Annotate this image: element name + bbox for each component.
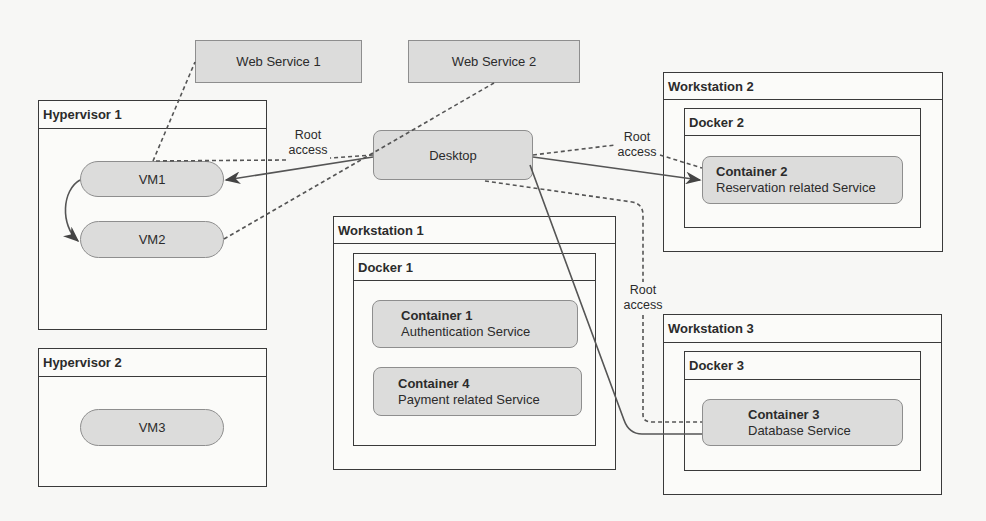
container-4-service: Payment related Service xyxy=(398,392,540,408)
hypervisor-2-title: Hypervisor 2 xyxy=(39,349,266,377)
web-service-1-node[interactable]: Web Service 1 xyxy=(195,40,362,83)
vm2-label: VM2 xyxy=(139,232,166,247)
web-service-2-label: Web Service 2 xyxy=(452,54,536,69)
container-2-node[interactable]: Container 2 Reservation related Service xyxy=(702,156,903,204)
container-4-node[interactable]: Container 4 Payment related Service xyxy=(373,367,582,416)
docker-1-frame[interactable]: Docker 1 xyxy=(353,253,596,446)
web-service-1-label: Web Service 1 xyxy=(236,54,320,69)
vm1-node[interactable]: VM1 xyxy=(80,161,224,197)
workstation-3-title: Workstation 3 xyxy=(664,315,941,343)
container-3-node[interactable]: Container 3 Database Service xyxy=(702,399,903,446)
container-2-service: Reservation related Service xyxy=(716,180,876,196)
hypervisor-1-title: Hypervisor 1 xyxy=(39,101,266,129)
container-1-service: Authentication Service xyxy=(401,324,530,340)
desktop-label: Desktop xyxy=(429,148,477,163)
container-1-name: Container 1 xyxy=(401,308,473,324)
root-access-label-container2: Root access xyxy=(615,130,659,160)
container-3-name: Container 3 xyxy=(748,407,820,423)
docker-1-title: Docker 1 xyxy=(354,254,595,281)
vm3-label: VM3 xyxy=(139,420,166,435)
workstation-2-title: Workstation 2 xyxy=(664,73,942,100)
docker-3-title: Docker 3 xyxy=(685,352,920,380)
container-3-service: Database Service xyxy=(748,423,851,439)
vm3-node[interactable]: VM3 xyxy=(80,409,224,446)
vm2-node[interactable]: VM2 xyxy=(80,221,224,258)
container-4-name: Container 4 xyxy=(398,376,470,392)
workstation-1-title: Workstation 1 xyxy=(334,217,615,244)
container-1-node[interactable]: Container 1 Authentication Service xyxy=(372,300,578,348)
hypervisor-1-frame[interactable]: Hypervisor 1 xyxy=(38,100,267,330)
web-service-2-node[interactable]: Web Service 2 xyxy=(408,40,580,83)
diagram-canvas: Web Service 1 Web Service 2 Desktop Hype… xyxy=(0,0,986,521)
root-access-label-vm1: Root access xyxy=(286,128,330,158)
vm1-label: VM1 xyxy=(139,172,166,187)
docker-2-title: Docker 2 xyxy=(685,109,920,136)
desktop-node[interactable]: Desktop xyxy=(373,130,533,180)
container-2-name: Container 2 xyxy=(716,164,788,180)
root-access-label-container3: Root access xyxy=(620,283,666,313)
